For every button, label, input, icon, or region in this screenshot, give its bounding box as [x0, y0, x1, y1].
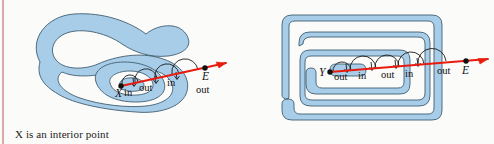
- label-point-E-left: E: [201, 70, 209, 82]
- panel-exterior-point: Y out in out in out E Y is an exterior p…: [247, 0, 494, 144]
- exterior-point-diagram: Y out in out in out E: [247, 0, 494, 144]
- point-E-right: [463, 58, 468, 63]
- label-crossing-out-2: out: [196, 84, 210, 95]
- label-crossing-out-3: out: [437, 65, 451, 76]
- label-point-X: X: [114, 87, 123, 99]
- label-point-Y: Y: [319, 66, 327, 78]
- label-crossing-in-1: in: [124, 87, 133, 98]
- caption-interior-point: X is an interior point: [15, 128, 109, 140]
- interior-point-diagram: X in out in E out: [0, 0, 247, 144]
- label-crossing-in-2: in: [405, 68, 414, 79]
- label-point-E-right: E: [461, 64, 469, 76]
- curved-region-shape: [36, 14, 189, 113]
- label-crossing-in-1: in: [358, 70, 367, 81]
- label-crossing-out-2: out: [381, 69, 395, 80]
- label-crossing-in-2: in: [167, 77, 176, 88]
- jordan-curve-figure: X in out in E out X is an interior point: [0, 0, 494, 144]
- rect-spiral-shape: [282, 15, 442, 120]
- label-crossing-out-1: out: [334, 71, 348, 82]
- panel-interior-point: X in out in E out X is an interior point: [0, 0, 247, 144]
- label-crossing-out-1: out: [139, 82, 153, 93]
- point-Y: [327, 69, 332, 74]
